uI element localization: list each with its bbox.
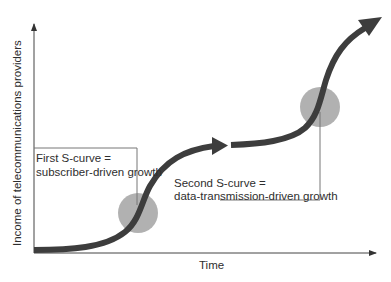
second-s-curve <box>231 28 365 145</box>
first-annotation-line2: subscriber-driven growth <box>36 165 162 179</box>
y-axis-label: Income of telecommunications providers <box>11 40 23 246</box>
second-annotation-line1: Second S-curve = <box>174 176 266 190</box>
second-annotation-line2: data-transmission-driven growth <box>174 189 338 203</box>
first-annotation-line1: First S-curve = <box>36 151 111 165</box>
first-curve-arrowhead <box>212 137 228 155</box>
s-curve-diagram <box>0 0 391 282</box>
x-axis-label: Time <box>199 258 224 272</box>
